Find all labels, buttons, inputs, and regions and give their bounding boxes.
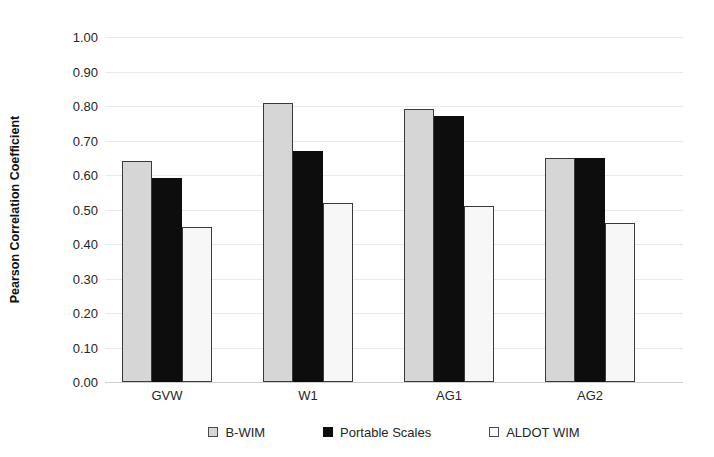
y-axis-tick-label: 1.00: [42, 31, 98, 44]
x-axis-category-label: AG2: [545, 386, 635, 406]
bar: [404, 109, 434, 382]
x-axis-category-label: GVW: [122, 386, 212, 406]
y-axis-tick-label: 0.60: [42, 169, 98, 182]
y-axis-tick-label: 0.90: [42, 65, 98, 78]
y-axis-tick-label: 0.40: [42, 238, 98, 251]
bar: [122, 161, 152, 382]
legend-label: Portable Scales: [340, 425, 431, 440]
legend-item[interactable]: Portable Scales: [323, 425, 431, 440]
gridline: [105, 382, 683, 383]
y-axis-tick-label: 0.20: [42, 307, 98, 320]
chart-legend: B-WIMPortable ScalesALDOT WIM: [105, 420, 683, 444]
bar: [575, 158, 605, 382]
legend-label: ALDOT WIM: [506, 425, 579, 440]
bar: [605, 223, 635, 382]
bar: [152, 178, 182, 382]
legend-swatch-icon: [489, 427, 499, 437]
legend-swatch-icon: [208, 427, 218, 437]
y-axis-tick-label: 0.00: [42, 376, 98, 389]
x-axis-category-label: AG1: [404, 386, 494, 406]
plot-area: [105, 37, 683, 382]
legend-swatch-icon: [323, 427, 333, 437]
bar: [434, 116, 464, 382]
bar: [545, 158, 575, 382]
bar-chart: Pearson Correlation Coefficient 1.000.90…: [0, 0, 714, 457]
y-axis-tick-label: 0.70: [42, 134, 98, 147]
bar: [293, 151, 323, 382]
y-axis-tick-labels: 1.000.900.800.700.600.500.400.300.200.10…: [42, 37, 98, 382]
y-axis-tick-label: 0.50: [42, 203, 98, 216]
bar: [182, 227, 212, 382]
bar: [464, 206, 494, 382]
y-axis-tick-label: 0.10: [42, 341, 98, 354]
x-axis-category-labels: GVWW1AG1AG2: [105, 386, 683, 408]
bar: [263, 103, 293, 382]
legend-item[interactable]: ALDOT WIM: [489, 425, 579, 440]
x-axis-category-label: W1: [263, 386, 353, 406]
y-axis-tick-label: 0.30: [42, 272, 98, 285]
y-axis-tick-label: 0.80: [42, 100, 98, 113]
legend-item[interactable]: B-WIM: [208, 425, 265, 440]
legend-label: B-WIM: [225, 425, 265, 440]
bar: [323, 203, 353, 382]
bar-groups: [105, 37, 683, 382]
y-axis-title: Pearson Correlation Coefficient: [6, 37, 24, 382]
